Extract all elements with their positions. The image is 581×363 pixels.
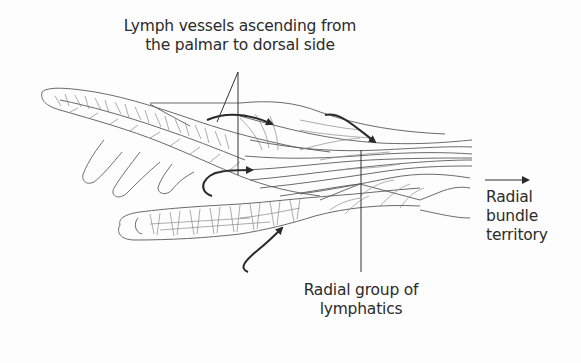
top-label-leaders (217, 72, 238, 175)
label-line: Radial group of (286, 281, 436, 300)
label-line: Radial (486, 188, 548, 207)
label-line: bundle (486, 207, 548, 226)
index-finger-lymph-network (55, 94, 370, 170)
flexed-fingers (83, 140, 194, 197)
curved-arrow-icon (207, 114, 272, 124)
label-ascending-lymph-vessels: Lymph vessels ascending from the palmar … (104, 17, 376, 55)
curved-arrow-icon (203, 170, 252, 196)
label-line: lymphatics (286, 300, 436, 319)
label-radial-group-lymphatics: Radial group of lymphatics (286, 281, 436, 319)
label-radial-bundle-territory: Radial bundle territory (486, 188, 548, 245)
dorsal-vessels (240, 116, 472, 218)
label-line: the palmar to dorsal side (104, 36, 376, 55)
label-line: Lymph vessels ascending from (104, 17, 376, 36)
label-line: territory (486, 226, 548, 245)
lymphatics-diagram: Lymph vessels ascending from the palmar … (0, 0, 581, 363)
curved-arrow-icon (243, 228, 282, 272)
curved-arrows (203, 114, 375, 272)
